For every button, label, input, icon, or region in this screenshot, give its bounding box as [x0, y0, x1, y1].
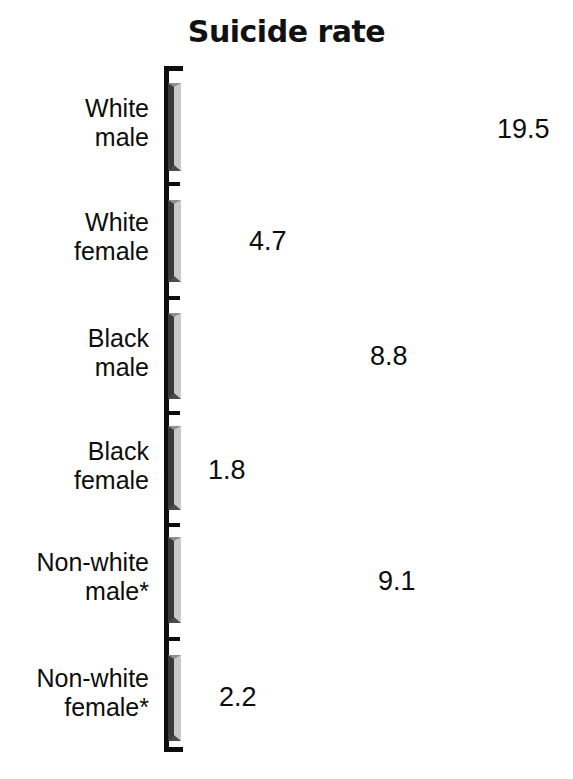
bar-value-label: 4.7: [249, 228, 287, 255]
axis-cap-bottom: [164, 747, 183, 752]
category-label: Black male: [88, 324, 149, 382]
bar-value-label: 2.2: [219, 684, 257, 711]
axis-tick: [164, 523, 180, 527]
bar: [168, 426, 200, 510]
category-label-line2: female: [74, 466, 149, 495]
axis-tick: [164, 182, 180, 186]
category-label-line1: Non-white: [36, 664, 149, 692]
bar-body: [168, 655, 181, 741]
bar: [168, 83, 489, 171]
category-label: Black female: [74, 437, 149, 495]
bar-body: [168, 426, 181, 510]
bar-body: [168, 313, 181, 399]
axis-tick: [164, 637, 180, 641]
category-label-line1: White: [85, 208, 149, 236]
bar: [168, 537, 365, 623]
bar-value-label: 9.1: [378, 568, 416, 595]
bar-value-label: 1.8: [208, 457, 246, 484]
bar: [168, 200, 241, 282]
bar: [168, 313, 355, 399]
axis-cap-top: [164, 66, 183, 71]
category-label-line2: male*: [36, 577, 149, 606]
category-label-line1: White: [85, 94, 149, 122]
category-label-line2: female*: [36, 693, 149, 722]
bar: [168, 655, 210, 741]
category-label-line2: male: [85, 123, 149, 152]
category-label: White male: [85, 94, 149, 152]
category-label: Non-white male*: [36, 548, 149, 606]
bar-value-label: 19.5: [497, 116, 550, 143]
category-label-line2: male: [88, 353, 149, 382]
bar-body: [168, 537, 181, 623]
bar-body: [168, 200, 181, 282]
axis-tick: [164, 296, 180, 300]
category-label: White female: [74, 208, 149, 266]
bar-value-label: 8.8: [370, 343, 408, 370]
category-label: Non-white female*: [36, 664, 149, 722]
category-label-line1: Black: [88, 437, 149, 465]
plot-area: White male 19.5 White female 4.7 Black m…: [0, 0, 573, 779]
category-label-line2: female: [74, 237, 149, 266]
bar-chart: Suicide rate White male 19.5 White femal: [0, 0, 573, 779]
category-label-line1: Black: [88, 324, 149, 352]
bar-body: [168, 83, 181, 171]
axis-tick: [164, 411, 180, 415]
category-label-line1: Non-white: [36, 548, 149, 576]
